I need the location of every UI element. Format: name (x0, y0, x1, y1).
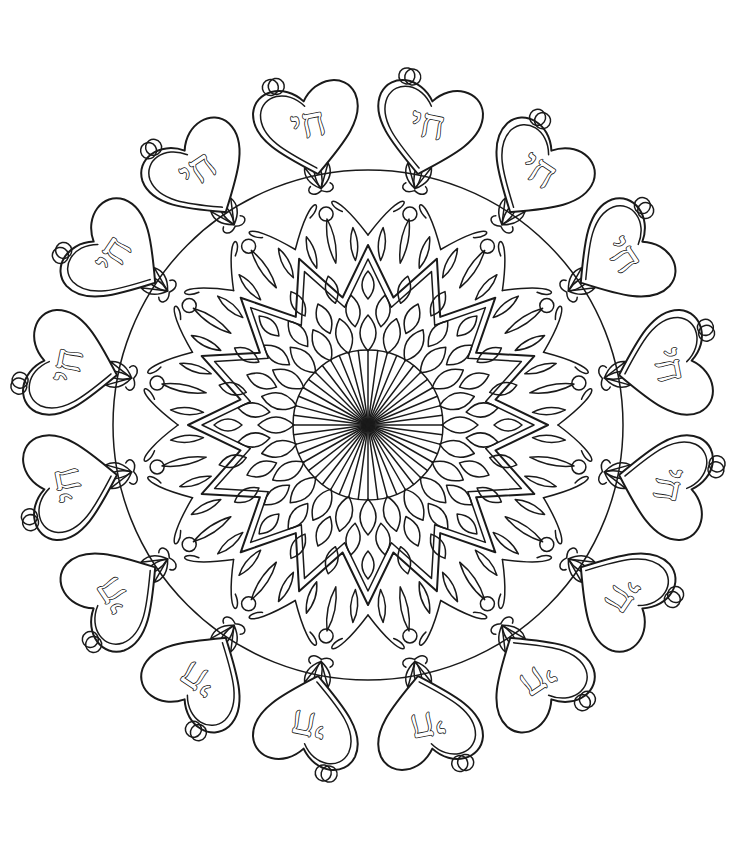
scroll-loop (540, 299, 554, 313)
leaf (378, 228, 385, 261)
leaf (251, 250, 276, 287)
almond-petal (259, 514, 279, 534)
ray-line (296, 406, 368, 425)
almond-petal (316, 517, 332, 547)
scroll-curl (558, 425, 592, 461)
scroll-curl (499, 559, 505, 608)
leaf (493, 296, 518, 318)
scroll-loop (403, 207, 417, 221)
scroll-curl (144, 425, 178, 461)
ray-line (349, 353, 368, 425)
chai-heart: חי (609, 423, 730, 547)
almond-petal (404, 517, 420, 547)
almond-petal (460, 373, 490, 389)
chai-heart: חי (366, 666, 489, 787)
almond-petal (288, 504, 308, 529)
leaf (306, 237, 317, 268)
almond-petal (432, 369, 463, 389)
scroll-loop (403, 629, 417, 643)
leaf (191, 336, 220, 351)
leaf (351, 590, 358, 623)
almond-petal (447, 345, 472, 365)
almond-petal (273, 461, 304, 481)
leaf (400, 219, 410, 263)
almond-petal (428, 321, 448, 346)
mandala-artwork: חיחיחיחיחיחיחיחיחיחיחיחיחיחיחיחי (0, 0, 743, 848)
leaf (162, 384, 206, 394)
scroll-loop (242, 597, 256, 611)
almond-petal (258, 417, 294, 433)
almond-petal (247, 461, 277, 477)
leaf (533, 435, 566, 442)
leaf (515, 500, 544, 515)
scroll-curl (185, 288, 234, 294)
leaf (251, 562, 276, 599)
almond-petal (290, 347, 316, 373)
chai-heart: חי (246, 64, 369, 185)
leaf (171, 435, 204, 442)
chai-heart: חי (125, 98, 269, 241)
almond-petal (442, 417, 478, 433)
leaf (180, 363, 211, 374)
scroll-loop (242, 239, 256, 253)
scroll-loop (319, 629, 333, 643)
leaf (327, 587, 337, 631)
leaf (460, 250, 485, 287)
almond-petal (312, 489, 332, 520)
chai-heart: חי (609, 303, 730, 426)
leaf (443, 572, 458, 601)
chai-heart: חי (41, 182, 185, 327)
scroll-curl (332, 201, 368, 235)
almond-petal (362, 271, 374, 299)
scroll-loop (572, 460, 586, 474)
chai-heart: חי (7, 423, 128, 546)
leaf (306, 582, 317, 613)
almond-petal (383, 497, 400, 532)
scroll-loop (480, 597, 494, 611)
center-dot (366, 423, 371, 428)
leaf (443, 248, 458, 277)
leaf (505, 517, 542, 542)
chai-heart: חי (246, 666, 370, 787)
chai-heart: חי (466, 608, 610, 751)
chai-heart: חי (551, 523, 695, 668)
almond-petal (336, 497, 353, 532)
ray-line (368, 353, 387, 425)
ray-line (296, 425, 368, 444)
almond-petal (428, 504, 448, 529)
almond-petal (360, 315, 376, 351)
almond-petal (264, 485, 289, 505)
almond-petal (290, 477, 316, 503)
almond-petal (420, 477, 446, 503)
ray-line (349, 425, 368, 497)
almond-petal (273, 369, 304, 389)
leaf (218, 532, 243, 554)
almond-petal (440, 393, 475, 410)
leaf (530, 384, 574, 394)
leaf (193, 517, 230, 542)
scroll-curl (499, 242, 505, 291)
leaf (505, 308, 542, 333)
almond-petal (404, 489, 424, 520)
scroll-curl (231, 559, 237, 608)
leaf (525, 363, 556, 374)
leaf (193, 308, 230, 333)
almond-petal (316, 304, 332, 334)
almond-petal (494, 419, 522, 431)
almond-petal (262, 393, 297, 410)
almond-petal (457, 514, 477, 534)
ray-line (368, 406, 440, 425)
leaf (400, 587, 410, 631)
almond-petal (362, 551, 374, 579)
chai-heart: חי (466, 98, 611, 242)
almond-petal (447, 485, 472, 505)
chai-heart: חי (366, 64, 490, 185)
almond-petal (360, 499, 376, 535)
almond-petal (336, 319, 353, 354)
almond-petal (264, 345, 289, 365)
scroll-curl (368, 201, 404, 235)
scroll-loop (540, 537, 554, 551)
leaf (419, 237, 430, 268)
chai-heart: חי (41, 523, 184, 667)
scroll-curl (231, 242, 237, 291)
